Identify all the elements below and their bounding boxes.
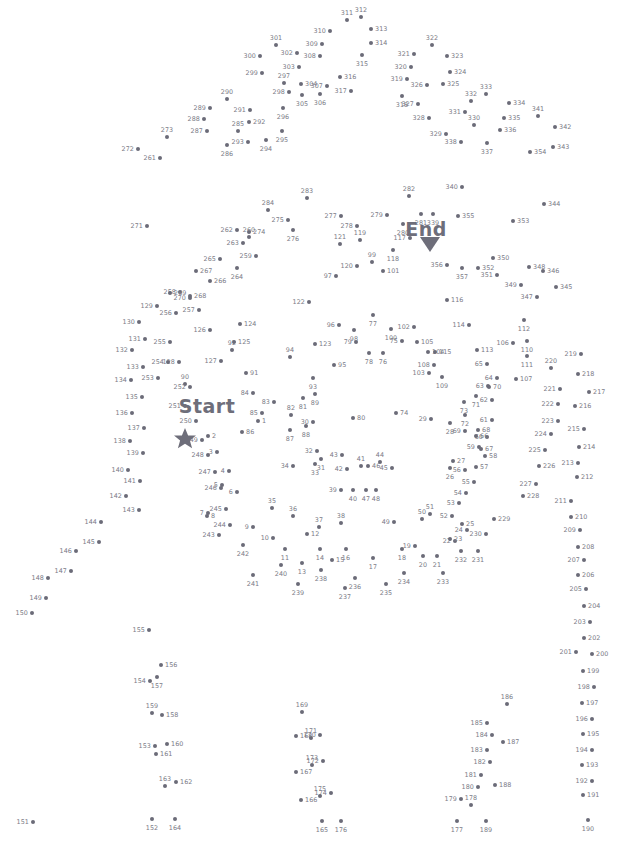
dot-label-105: 105: [421, 339, 434, 345]
dot-label-179: 179: [445, 796, 458, 802]
dot-label-289: 289: [194, 105, 207, 111]
dot-label-310: 310: [314, 28, 327, 34]
dot-12: [305, 532, 309, 536]
dot-316: [338, 75, 342, 79]
dot-label-312: 312: [355, 7, 368, 13]
dot-167: [294, 770, 298, 774]
dot-182: [488, 760, 492, 764]
dot-42: [345, 467, 349, 471]
dot-label-335: 335: [508, 115, 521, 121]
dot-label-25: 25: [466, 521, 474, 527]
dot-236: [353, 576, 357, 580]
dot-label-62: 62: [480, 397, 488, 403]
dot-345: [554, 285, 558, 289]
dot-206: [576, 573, 580, 577]
dot-label-213: 213: [562, 460, 575, 466]
dot-label-246: 246: [205, 485, 218, 491]
dot-label-349: 349: [505, 282, 518, 288]
dot-31: [319, 457, 323, 461]
dot-label-58: 58: [489, 453, 497, 459]
dot-45: [390, 466, 394, 470]
dot-142: [124, 494, 128, 498]
dot-label-200: 200: [596, 651, 609, 657]
dot-344: [542, 202, 546, 206]
dot-label-52: 52: [440, 513, 448, 519]
dot-89: [313, 392, 317, 396]
dot-57: [474, 465, 478, 469]
dot-label-290: 290: [221, 89, 234, 95]
dot-label-162: 162: [180, 779, 193, 785]
dot-label-4: 4: [221, 468, 225, 474]
dot-label-96: 96: [327, 322, 335, 328]
dot-label-354: 354: [534, 149, 547, 155]
dot-label-36: 36: [289, 506, 297, 512]
dot-label-294: 294: [260, 146, 273, 152]
dot-label-216: 216: [579, 403, 592, 409]
dot-label-89: 89: [311, 400, 319, 406]
dot-71: [474, 394, 478, 398]
dot-26: [448, 466, 452, 470]
dot-279: [385, 213, 389, 217]
dot-label-314: 314: [375, 40, 388, 46]
dot-256: [174, 311, 178, 315]
dot-label-118: 118: [387, 256, 400, 262]
dot-163: [163, 784, 167, 788]
dot-229: [492, 517, 496, 521]
dot-label-198: 198: [578, 684, 591, 690]
dot-label-291: 291: [234, 107, 247, 113]
dot-label-171: 171: [305, 728, 318, 734]
dot-300: [258, 54, 262, 58]
dot-159: [150, 711, 154, 715]
dot-label-72: 72: [461, 421, 469, 427]
dot-label-201: 201: [560, 649, 573, 655]
dot-269: [168, 291, 172, 295]
dot-106: [511, 341, 515, 345]
dot-label-164: 164: [169, 825, 182, 831]
dot-201: [574, 650, 578, 654]
dot-label-319: 319: [391, 76, 404, 82]
dot-label-186: 186: [501, 694, 514, 700]
dot-216: [573, 404, 577, 408]
dot-311: [345, 18, 349, 22]
dot-2: [206, 434, 210, 438]
dot-210: [569, 515, 573, 519]
dot-label-317: 317: [335, 88, 348, 94]
dot-label-210: 210: [575, 514, 588, 520]
dot-228: [521, 494, 525, 498]
dot-86: [240, 430, 244, 434]
dot-label-150: 150: [16, 610, 29, 616]
dot-73: [462, 400, 466, 404]
dot-label-204: 204: [588, 603, 601, 609]
dot-label-292: 292: [253, 119, 266, 125]
dot-label-340: 340: [446, 184, 459, 190]
dot-294: [264, 138, 268, 142]
dot-177: [455, 819, 459, 823]
dot-label-120: 120: [341, 263, 354, 269]
dot-label-6: 6: [229, 489, 233, 495]
dot-284: [266, 208, 270, 212]
dot-15: [330, 558, 334, 562]
dot-217: [587, 390, 591, 394]
dot-label-194: 194: [576, 747, 589, 753]
dot-252: [188, 385, 192, 389]
dot-350: [491, 256, 495, 260]
dot-label-87: 87: [286, 436, 294, 442]
dot-label-144: 144: [85, 519, 98, 525]
dot-label-82: 82: [287, 405, 295, 411]
dot-label-220: 220: [545, 358, 558, 364]
dot-label-226: 226: [543, 463, 556, 469]
dot-80: [351, 416, 355, 420]
dot-label-266: 266: [214, 278, 227, 284]
dot-155: [147, 628, 151, 632]
dot-192: [590, 779, 594, 783]
dot-255: [168, 340, 172, 344]
dot-label-67: 67: [485, 446, 493, 452]
dot-label-53: 53: [447, 500, 455, 506]
dot-label-54: 54: [454, 490, 462, 496]
dot-label-214: 214: [583, 444, 596, 450]
dot-label-91: 91: [250, 370, 258, 376]
dot-11: [283, 547, 287, 551]
dot-29: [429, 417, 433, 421]
dot-label-308: 308: [304, 53, 317, 59]
dot-67: [479, 447, 483, 451]
